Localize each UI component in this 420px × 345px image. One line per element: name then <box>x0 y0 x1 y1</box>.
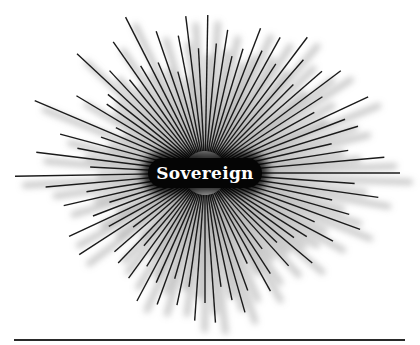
center-label-text: Sovereign <box>156 163 254 183</box>
center-label-badge: Sovereign <box>148 158 262 188</box>
bottom-divider-line <box>14 339 405 341</box>
starburst-illustration: Sovereign <box>0 0 420 345</box>
